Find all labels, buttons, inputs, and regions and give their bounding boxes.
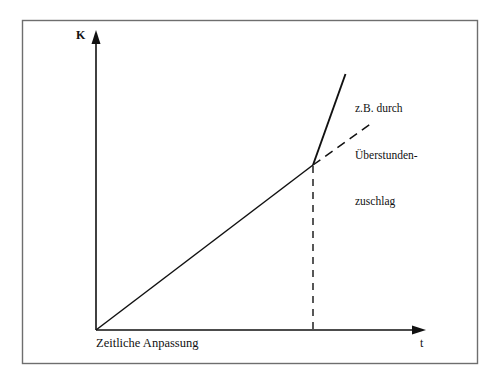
annotation-line-3: zuschlag: [355, 194, 418, 210]
figure-container: K t Zeitliche Anpassung z.B. durch Übers…: [0, 0, 502, 385]
annotation-line-1: z.B. durch: [355, 101, 418, 117]
x-axis-label: t: [420, 336, 423, 351]
cost-adjustment-diagram: [0, 0, 502, 385]
diagram-caption: Zeitliche Anpassung: [96, 336, 198, 352]
overtime-annotation: z.B. durch Überstunden- zuschlag: [355, 70, 418, 241]
y-axis-label: K: [76, 28, 85, 43]
annotation-line-2: Überstunden-: [355, 148, 418, 164]
